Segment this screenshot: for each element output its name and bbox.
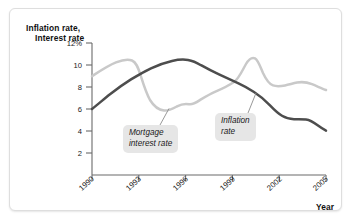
inflation-label-line-2: rate — [221, 127, 250, 138]
y-tick-label-8: 8 — [50, 83, 82, 92]
chart-card: Inflation rate, Interest rate Year 12% 1… — [9, 8, 342, 211]
mortgage-label-line-2: interest rate — [129, 139, 172, 150]
y-tick-label-10: 10 — [50, 61, 82, 70]
series-label-mortgage-interest-rate: Mortgage interest rate — [123, 125, 178, 153]
y-axis-title-line-1: Inflation rate, — [26, 23, 80, 33]
y-tick-label-12: 12% — [50, 39, 82, 48]
series-mortgage-interest-rate — [92, 58, 326, 111]
y-tick-label-4: 4 — [50, 127, 82, 136]
inflation-label-line-1: Inflation — [221, 116, 250, 127]
inflation-callout-leader-line — [248, 93, 256, 113]
figure-root: Inflation rate, Interest rate Year 12% 1… — [0, 0, 351, 220]
y-tick-label-6: 6 — [50, 105, 82, 114]
y-tick-label-2: 2 — [50, 149, 82, 158]
series-label-inflation-rate: Inflation rate — [215, 113, 256, 141]
mortgage-label-line-1: Mortgage — [129, 128, 172, 139]
x-axis-title: Year — [316, 202, 334, 212]
y-tick-marks — [86, 43, 92, 153]
x-tick-marks — [92, 175, 326, 181]
